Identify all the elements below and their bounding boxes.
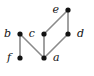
graph-canvas: ebcdfa	[0, 0, 94, 76]
node-label-f: f	[6, 51, 13, 64]
node-label-c: c	[29, 27, 35, 40]
node-label-d: d	[77, 27, 84, 40]
hasse-diagram-figure: ebcdfa	[0, 0, 94, 76]
node-d	[65, 31, 70, 36]
node-label-a: a	[53, 51, 60, 64]
node-f	[17, 55, 22, 60]
node-c	[41, 31, 46, 36]
node-e	[65, 7, 70, 12]
node-a	[41, 55, 46, 60]
node-label-e: e	[52, 3, 59, 16]
node-b	[17, 31, 22, 36]
node-label-b: b	[4, 27, 11, 40]
